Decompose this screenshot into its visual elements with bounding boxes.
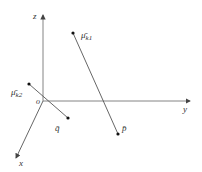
y-axis-label: y [182, 104, 187, 114]
x-axis [16, 101, 43, 158]
point-mu-k2 [27, 82, 30, 85]
vector-diagram: z y x o μ̄k1 p̄ μ̄k2 q̄ [0, 0, 202, 172]
q-label: q̄ [55, 123, 60, 133]
point-mu-k1 [71, 31, 74, 34]
mu-k2-label: μ̄k2 [10, 87, 23, 99]
x-axis-label: x [18, 158, 23, 168]
segment-mu-k1-p [73, 33, 118, 134]
p-label: p̄ [121, 123, 127, 133]
origin-label: o [36, 97, 40, 106]
point-q [66, 116, 69, 119]
z-axis-label: z [32, 11, 37, 21]
mu-k1-label: μ̄k1 [80, 30, 92, 42]
point-p [116, 132, 119, 135]
